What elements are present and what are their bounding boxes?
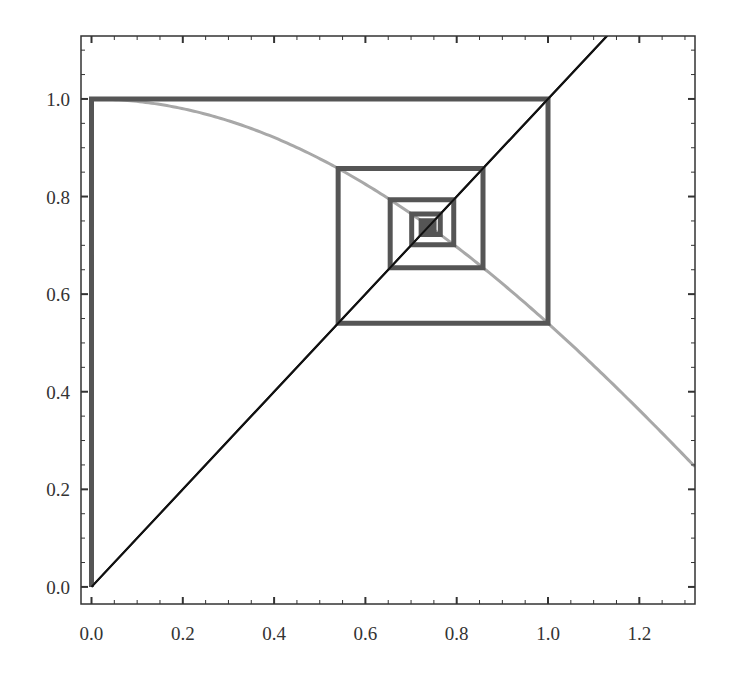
y-tick-label: 0.0 bbox=[46, 577, 70, 598]
series-group bbox=[91, 36, 694, 587]
plot-frame bbox=[81, 36, 695, 604]
x-tick-label: 0.6 bbox=[354, 623, 378, 644]
x-tick-label: 0.8 bbox=[445, 623, 469, 644]
y-tick-label: 1.0 bbox=[46, 89, 70, 110]
y-axis-ticks bbox=[81, 50, 695, 587]
y-axis-tick-labels: 0.00.20.40.60.81.0 bbox=[46, 89, 70, 598]
x-tick-label: 0.2 bbox=[171, 623, 195, 644]
x-tick-label: 0.0 bbox=[80, 623, 104, 644]
y-tick-label: 0.6 bbox=[46, 284, 70, 305]
y-tick-label: 0.4 bbox=[46, 382, 70, 403]
cos-curve bbox=[92, 99, 695, 466]
x-tick-label: 0.4 bbox=[262, 623, 286, 644]
plot-series bbox=[91, 36, 694, 587]
y-tick-label: 0.8 bbox=[46, 187, 70, 208]
y-tick-label: 0.2 bbox=[46, 479, 70, 500]
identity-line-overlay bbox=[91, 36, 607, 587]
cobweb-plot: 0.00.20.40.60.81.01.2 0.00.20.40.60.81.0 bbox=[0, 0, 734, 685]
x-axis-tick-labels: 0.00.20.40.60.81.01.2 bbox=[80, 623, 652, 644]
x-axis-ticks bbox=[91, 36, 684, 604]
x-tick-label: 1.0 bbox=[536, 623, 560, 644]
x-tick-label: 1.2 bbox=[627, 623, 651, 644]
